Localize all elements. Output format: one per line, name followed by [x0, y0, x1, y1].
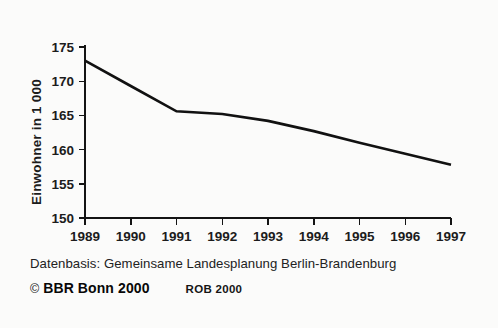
- y-tick-label-165: 165: [51, 108, 74, 123]
- x-tick-label-1990: 1990: [116, 229, 146, 244]
- x-tick-label-1992: 1992: [207, 229, 237, 244]
- x-axis-ticks: [85, 218, 451, 225]
- figure: Einwohner in 1 000 175 170 165 160 155 1…: [0, 0, 498, 328]
- x-tick-label-1996: 1996: [390, 229, 421, 244]
- source-note: Datenbasis: Gemeinsame Landesplanung Ber…: [30, 256, 490, 271]
- x-tick-label-1991: 1991: [161, 229, 192, 244]
- chart-area: Einwohner in 1 000 175 170 165 160 155 1…: [0, 0, 498, 252]
- y-tick-label-175: 175: [51, 40, 74, 55]
- population-series-line: [85, 61, 451, 165]
- x-tick-label-1994: 1994: [299, 229, 330, 244]
- y-tick-label-160: 160: [51, 143, 74, 158]
- y-axis-title: Einwohner in 1 000: [29, 79, 44, 205]
- footer: Datenbasis: Gemeinsame Landesplanung Ber…: [30, 256, 490, 296]
- copyright-icon: ©: [30, 282, 39, 296]
- y-tick-label-155: 155: [51, 177, 74, 192]
- map-code: ROB 2000: [186, 283, 243, 295]
- y-axis-ticks: [79, 47, 85, 218]
- line-chart: Einwohner in 1 000 175 170 165 160 155 1…: [0, 0, 498, 252]
- x-tick-label-1997: 1997: [436, 229, 466, 244]
- x-tick-label-1995: 1995: [344, 229, 375, 244]
- y-tick-label-150: 150: [51, 211, 74, 226]
- y-tick-label-170: 170: [51, 74, 74, 89]
- x-tick-label-1993: 1993: [253, 229, 284, 244]
- credit-row: © BBR Bonn 2000 ROB 2000: [30, 280, 490, 296]
- publisher-credit: BBR Bonn 2000: [43, 280, 149, 296]
- x-tick-label-1989: 1989: [70, 229, 100, 244]
